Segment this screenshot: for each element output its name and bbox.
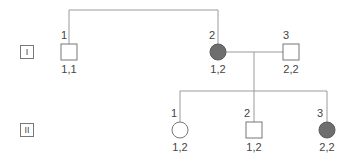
individual-number-i2: 2 [209, 30, 215, 41]
genotype-i2: 1,2 [210, 64, 225, 75]
individual-number-ii2: 2 [244, 108, 250, 119]
mating-line-i1-i2 [69, 10, 218, 44]
individual-number-i3: 3 [283, 30, 289, 41]
individual-i2-female-affected [210, 44, 226, 60]
genotype-ii3: 2,2 [319, 142, 334, 153]
generation-label-text: II [24, 125, 29, 135]
individual-ii2-male-unaffected [246, 122, 262, 138]
individual-ii1-female-unaffected [172, 122, 188, 138]
individual-ii3-female-affected [319, 122, 335, 138]
genotype-i3: 2,2 [283, 64, 298, 75]
individual-i3-male-unaffected [283, 44, 299, 60]
genotype-ii2: 1,2 [246, 142, 261, 153]
generation-label-ii: II [20, 123, 34, 137]
generation-label-i: I [20, 45, 34, 59]
individual-number-i1: 1 [61, 30, 67, 41]
genotype-i1: 1,1 [61, 64, 76, 75]
individual-number-ii1: 1 [171, 108, 177, 119]
individual-number-ii3: 3 [317, 108, 323, 119]
genotype-ii1: 1,2 [172, 142, 187, 153]
generation-label-text: I [26, 47, 29, 57]
individual-i1-male-unaffected [61, 44, 77, 60]
